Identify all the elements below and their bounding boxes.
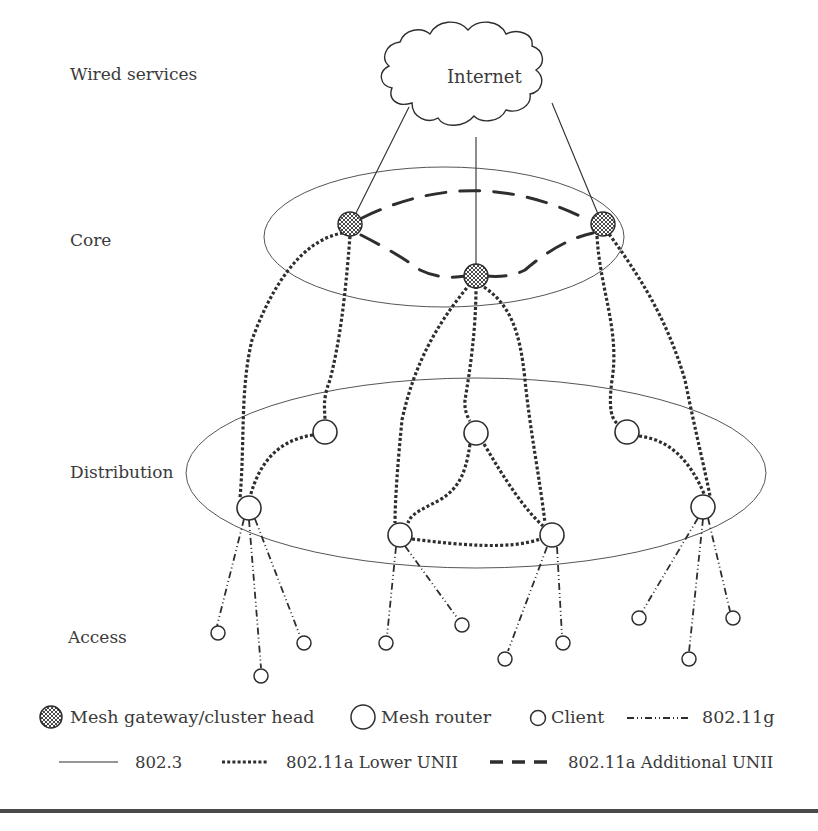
legend-802-11g-label: 802.11g: [702, 707, 774, 727]
legend-row-1: Mesh gateway/cluster head Mesh router Cl…: [40, 705, 774, 729]
legend-router-icon: [351, 705, 375, 729]
client-icon: [379, 636, 393, 650]
legend-client-label: Client: [551, 707, 604, 727]
client-icon: [297, 636, 311, 650]
legend-802-3-label: 802.3: [135, 753, 182, 772]
gateway-icon-g3: [591, 212, 615, 236]
tier-label-access: Access: [67, 627, 127, 647]
router-icon-r2: [464, 421, 488, 445]
legend-gateway-label: Mesh gateway/cluster head: [70, 707, 315, 727]
figure-bottom-rule: [0, 809, 818, 813]
router-nodes: [237, 420, 715, 547]
mesh-network-diagram: Wired services Core Distribution Access …: [0, 0, 818, 831]
figure: Wired services Core Distribution Access …: [0, 0, 818, 831]
router-icon-r6: [540, 523, 564, 547]
client-icon: [556, 636, 570, 650]
internet-label: Internet: [447, 66, 522, 87]
legend-router-label: Mesh router: [381, 707, 492, 727]
legend-client-icon: [531, 711, 546, 726]
legend-row-2: 802.3 802.11a Lower UNII 802.11a Additio…: [59, 753, 773, 772]
tier-label-distribution: Distribution: [70, 462, 174, 482]
legend-gateway-icon: [40, 706, 62, 728]
links-802-11g: [217, 518, 730, 668]
gateway-icon-g1: [338, 212, 362, 236]
client-icon: [254, 669, 268, 683]
gateway-icon-g2: [464, 264, 488, 288]
client-icon: [211, 626, 225, 640]
legend-802-11a-lower-label: 802.11a Lower UNII: [286, 753, 458, 772]
legend-802-11a-additional-label: 802.11a Additional UNII: [568, 753, 773, 772]
tier-label-core: Core: [70, 230, 111, 250]
distribution-tier-ellipse: [186, 378, 766, 568]
router-icon-r3: [615, 420, 639, 444]
core-tier-ellipse: [264, 167, 624, 307]
tier-label-wired-services: Wired services: [70, 64, 197, 84]
router-icon-r5: [388, 523, 412, 547]
client-icon: [682, 652, 696, 666]
client-icon: [498, 652, 512, 666]
client-icon: [726, 611, 740, 625]
links-802-3: [354, 103, 598, 266]
client-nodes: [211, 611, 740, 683]
client-icon: [455, 618, 469, 632]
router-icon-r7: [691, 495, 715, 519]
router-icon-r1: [313, 420, 337, 444]
client-icon: [632, 611, 646, 625]
router-icon-r4: [237, 496, 261, 520]
